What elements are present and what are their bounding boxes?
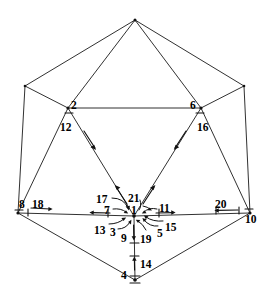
label-8: 8: [19, 199, 25, 211]
dot-bottom: [133, 278, 137, 282]
inner-edge-node6-to-center: [134, 108, 201, 216]
outer-edge-upper-left-to-lower-left: [18, 86, 25, 213]
label-5: 5: [157, 228, 163, 240]
dot-apex: [134, 19, 137, 22]
label-2: 2: [71, 100, 77, 112]
outer-edge-lower-right-to-bottom: [135, 213, 250, 280]
arrow-edge-17: [115, 185, 127, 204]
dot-node6: [199, 106, 202, 109]
polyhedral-graph-figure: [0, 0, 270, 297]
label-6: 6: [190, 100, 196, 112]
label-16: 16: [197, 122, 209, 134]
arrow-edge-14: [132, 256, 136, 270]
inner-edge-apex-to-node2: [68, 20, 135, 108]
dot-upper-right: [243, 85, 246, 88]
inner-edge-upper-right-to-node6: [201, 86, 244, 108]
outer-edge-upper-right-to-lower-right: [244, 86, 250, 213]
arrow-edge-12: [84, 131, 96, 150]
inner-edge-upper-left-to-node2: [25, 86, 68, 108]
label-9: 9: [121, 233, 127, 245]
label-18: 18: [32, 199, 44, 211]
label-3: 3: [110, 227, 116, 239]
label-13: 13: [94, 225, 106, 237]
outer-edge-apex-to-upper-left: [25, 20, 135, 86]
dot-node2: [66, 106, 69, 109]
dot-lower-left: [16, 211, 19, 214]
label-14: 14: [140, 259, 152, 271]
dot-upper-left: [24, 85, 27, 88]
label-10: 10: [245, 214, 257, 226]
diagram-root: 2 12 6 16 8 18 20 10 17 21 7 1 11 13 3 9…: [0, 0, 270, 297]
label-1: 1: [131, 205, 137, 217]
inner-edge-lower-left-to-center: [18, 213, 134, 216]
inner-structure-edges: [18, 20, 250, 280]
callout-curve-13: [109, 218, 126, 224]
inner-edge-apex-to-node6: [135, 20, 201, 108]
inner-edge-center-to-lower-right: [134, 213, 250, 216]
arrow-edge-21: [143, 185, 155, 204]
label-19: 19: [140, 234, 152, 246]
callout-curve-7: [113, 209, 128, 214]
label-4: 4: [121, 270, 127, 282]
label-21: 21: [128, 193, 140, 205]
label-7: 7: [104, 205, 110, 217]
label-12: 12: [60, 122, 72, 134]
callout-curve-15: [144, 216, 163, 222]
outer-edge-apex-to-upper-right: [135, 20, 244, 86]
arrow-edge-16: [174, 131, 186, 150]
arrow-edge-9: [132, 225, 136, 241]
label-20: 20: [215, 199, 227, 211]
label-11: 11: [159, 203, 170, 215]
label-15: 15: [165, 222, 177, 234]
